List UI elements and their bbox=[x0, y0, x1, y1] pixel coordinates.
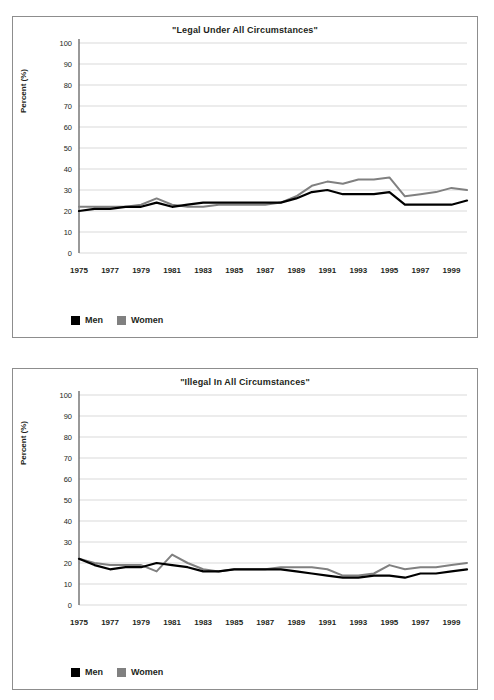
y-tick-label: 30 bbox=[64, 538, 72, 547]
x-tick-label: 1999 bbox=[443, 618, 461, 627]
x-tick-label: 1987 bbox=[256, 618, 274, 627]
y-tick-label: 80 bbox=[64, 81, 72, 90]
x-tick-label: 1975 bbox=[70, 266, 88, 275]
y-tick-label: 60 bbox=[64, 475, 72, 484]
y-tick-label: 20 bbox=[64, 559, 72, 568]
y-tick-label: 50 bbox=[64, 144, 72, 153]
x-tick-label: 1997 bbox=[412, 618, 430, 627]
line-chart-legal: 0102030405060708090100197519771979198119… bbox=[13, 17, 479, 285]
series-line-women bbox=[79, 555, 467, 576]
x-tick-label: 1979 bbox=[132, 266, 150, 275]
x-tick-label: 1983 bbox=[194, 266, 212, 275]
x-tick-label: 1981 bbox=[163, 266, 181, 275]
legend-item-men[interactable]: Men bbox=[71, 315, 103, 325]
x-tick-label: 1987 bbox=[256, 266, 274, 275]
y-tick-label: 50 bbox=[64, 496, 72, 505]
line-chart-illegal: 0102030405060708090100197519771979198119… bbox=[13, 369, 479, 637]
legend-swatch-women bbox=[117, 668, 126, 677]
x-tick-label: 1979 bbox=[132, 618, 150, 627]
legend-item-women[interactable]: Women bbox=[117, 315, 163, 325]
y-tick-label: 60 bbox=[64, 123, 72, 132]
y-tick-label: 20 bbox=[64, 207, 72, 216]
y-tick-label: 90 bbox=[64, 412, 72, 421]
x-tick-label: 1985 bbox=[225, 266, 243, 275]
legend-swatch-men bbox=[71, 316, 80, 325]
x-tick-label: 1991 bbox=[318, 266, 336, 275]
x-tick-label: 1997 bbox=[412, 266, 430, 275]
legend-item-men[interactable]: Men bbox=[71, 667, 103, 677]
legend-label-men: Men bbox=[85, 667, 103, 677]
y-tick-label: 40 bbox=[64, 165, 72, 174]
legend-label-women: Women bbox=[131, 315, 163, 325]
chart-panel-legal: "Legal Under All Circumstances" Percent … bbox=[12, 16, 478, 338]
figure-page: "Legal Under All Circumstances" Percent … bbox=[0, 0, 494, 700]
legend-swatch-women bbox=[117, 316, 126, 325]
y-tick-label: 70 bbox=[64, 102, 72, 111]
x-tick-label: 1995 bbox=[381, 618, 399, 627]
y-tick-label: 0 bbox=[68, 601, 72, 610]
y-tick-label: 0 bbox=[68, 249, 72, 258]
x-tick-label: 1999 bbox=[443, 266, 461, 275]
x-tick-label: 1975 bbox=[70, 618, 88, 627]
x-tick-label: 1983 bbox=[194, 618, 212, 627]
x-tick-label: 1977 bbox=[101, 266, 119, 275]
plot-area-illegal: Percent (%) 0102030405060708090100197519… bbox=[13, 369, 477, 637]
x-tick-label: 1993 bbox=[349, 266, 367, 275]
x-tick-label: 1993 bbox=[349, 618, 367, 627]
x-tick-label: 1985 bbox=[225, 618, 243, 627]
plot-area-legal: Percent (%) 0102030405060708090100197519… bbox=[13, 17, 477, 285]
y-tick-label: 10 bbox=[64, 228, 72, 237]
y-tick-label: 100 bbox=[59, 391, 72, 400]
legend-item-women[interactable]: Women bbox=[117, 667, 163, 677]
chart-panel-illegal: "Illegal In All Circumstances" Percent (… bbox=[12, 368, 478, 690]
y-tick-label: 70 bbox=[64, 454, 72, 463]
y-tick-label: 10 bbox=[64, 580, 72, 589]
y-tick-label: 90 bbox=[64, 60, 72, 69]
y-tick-label: 100 bbox=[59, 39, 72, 48]
x-tick-label: 1989 bbox=[287, 618, 305, 627]
legend-label-women: Women bbox=[131, 667, 163, 677]
series-line-men bbox=[79, 190, 467, 211]
legend-legal: Men Women bbox=[71, 315, 163, 325]
x-tick-label: 1991 bbox=[318, 618, 336, 627]
y-tick-label: 80 bbox=[64, 433, 72, 442]
y-tick-label: 30 bbox=[64, 186, 72, 195]
legend-swatch-men bbox=[71, 668, 80, 677]
y-tick-label: 40 bbox=[64, 517, 72, 526]
x-tick-label: 1977 bbox=[101, 618, 119, 627]
x-tick-label: 1989 bbox=[287, 266, 305, 275]
x-tick-label: 1981 bbox=[163, 618, 181, 627]
legend-label-men: Men bbox=[85, 315, 103, 325]
x-tick-label: 1995 bbox=[381, 266, 399, 275]
legend-illegal: Men Women bbox=[71, 667, 163, 677]
